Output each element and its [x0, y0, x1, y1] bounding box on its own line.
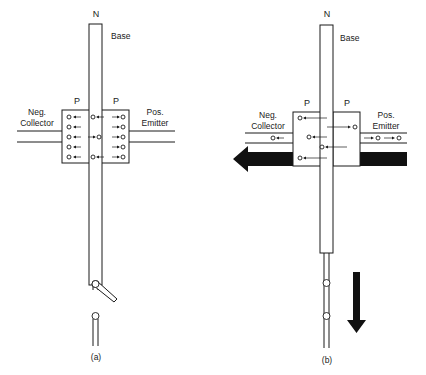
collector-label-b-line2: Collector	[251, 121, 285, 131]
collector-label-b-line1: Neg.	[259, 110, 277, 120]
collector-current-arrow	[233, 146, 294, 172]
emitter-label-a-line1: Pos.	[146, 107, 163, 117]
left-p-label-b: P	[304, 98, 310, 108]
base-n-bar-b	[320, 25, 333, 253]
base-n-bar-a	[89, 24, 102, 285]
left-p-label-a: P	[74, 96, 80, 106]
panel-a: N Base P P Neg. Collector Pos. Emitter	[17, 9, 175, 362]
caption-b: (b)	[322, 355, 333, 365]
caption-a: (a)	[91, 352, 102, 362]
base-type-label-a: N	[93, 9, 100, 19]
emitter-current-band	[360, 152, 407, 166]
right-p-label-a: P	[113, 96, 119, 106]
collector-label-a-line2: Collector	[20, 118, 54, 128]
collector-label-a-line1: Neg.	[28, 107, 46, 117]
base-label-b: Base	[340, 33, 360, 43]
base-switch-closed	[323, 253, 330, 348]
emitter-label-a-line2: Emitter	[142, 118, 169, 128]
switch-contact	[92, 313, 99, 320]
right-p-label-b: P	[344, 98, 350, 108]
base-label-a: Base	[111, 31, 131, 41]
pnp-transistor-diagram: N Base P P Neg. Collector Pos. Emitter	[0, 0, 426, 375]
base-type-label-b: N	[324, 9, 331, 19]
base-switch-open	[92, 281, 117, 347]
emitter-p-region-b	[333, 112, 360, 166]
emitter-label-b-line2: Emitter	[373, 121, 400, 131]
base-current-arrow	[347, 272, 366, 333]
panel-b: N Base P P Neg. Collector Pos. Emitter	[233, 9, 407, 365]
emitter-label-b-line1: Pos.	[377, 110, 394, 120]
